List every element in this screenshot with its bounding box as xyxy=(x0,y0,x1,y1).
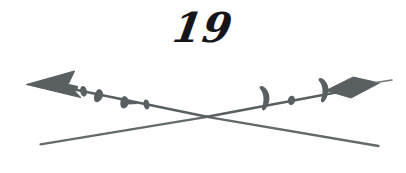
fletching-node-1 xyxy=(79,85,88,97)
arrowhead-diamond-right-icon xyxy=(326,77,380,98)
arrow-upper xyxy=(27,71,393,117)
arrowhead-barbed-left-icon xyxy=(27,71,81,98)
lower-line-right-segment xyxy=(207,117,379,146)
arrow-lower-line xyxy=(41,117,379,146)
fletching-node-2 xyxy=(94,89,103,102)
fletching-node-5 xyxy=(287,95,296,105)
crossed-arrows-divider xyxy=(0,0,406,173)
diamond-tip-flick xyxy=(376,80,392,83)
lower-line-left-segment xyxy=(41,117,208,145)
fletching-node-4 xyxy=(143,99,151,110)
ornament-page: 19 xyxy=(0,0,406,173)
arrow-upper-shaft-right xyxy=(207,90,352,117)
